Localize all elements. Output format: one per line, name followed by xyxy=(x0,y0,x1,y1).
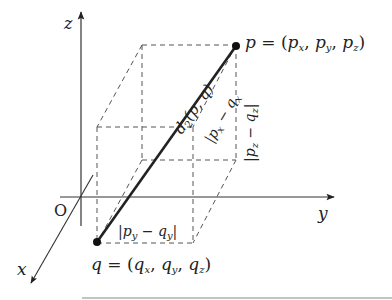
p-x-sub: x xyxy=(298,42,304,53)
point-p xyxy=(232,42,240,50)
point-q-label: q = (qx, qy, qz) xyxy=(91,256,211,275)
p-open: ( xyxy=(281,32,288,52)
q-z-sub: z xyxy=(199,264,204,275)
q-x-sub: x xyxy=(144,264,150,275)
point-q xyxy=(93,238,101,246)
x-axis-label: x xyxy=(17,261,27,278)
p-name: p xyxy=(245,32,256,52)
q-y-sub: y xyxy=(172,264,178,275)
diagram-canvas: z y x O p = (px, py, pz) q = (qx, qy, qz… xyxy=(0,0,392,300)
q-equals: = xyxy=(107,254,121,274)
p-y-sub: y xyxy=(326,42,332,53)
point-p-label: p = (px, py, pz) xyxy=(245,34,365,53)
y-axis-label: y xyxy=(318,205,328,222)
q-open: ( xyxy=(127,254,134,274)
origin-label: O xyxy=(54,203,67,219)
q-name: q xyxy=(91,254,102,274)
z-axis-label: z xyxy=(64,16,72,32)
dy-label: |py − qy| xyxy=(118,224,177,241)
p-equals: = xyxy=(261,32,275,52)
p-z-sub: z xyxy=(353,42,358,53)
x-axis xyxy=(31,175,93,283)
dz-label: |pz − qz| xyxy=(243,103,260,162)
p-x: p xyxy=(288,32,299,52)
